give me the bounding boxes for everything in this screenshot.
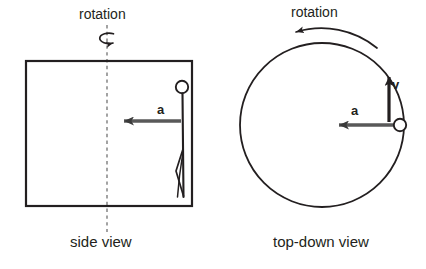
rotation-label-side: rotation: [79, 7, 126, 21]
caption-top-down-view: top-down view: [273, 234, 369, 249]
person-torso: [183, 94, 184, 198]
rotation-label-top: rotation: [291, 5, 338, 19]
caption-side-view: side view: [70, 234, 132, 249]
acceleration-label-top: a: [351, 104, 358, 117]
top-down-view-panel: [240, 28, 406, 207]
person-stick-figure: [176, 81, 188, 197]
side-view-panel: [26, 25, 192, 232]
diagram-canvas: [0, 0, 426, 269]
chamber-rectangle: [26, 61, 192, 206]
velocity-label-top: v: [392, 78, 399, 91]
person-head: [176, 81, 188, 93]
physics-diagram: rotation rotation a a v side view top-do…: [0, 0, 426, 269]
acceleration-label-side: a: [157, 103, 164, 116]
person-marker-top: [394, 119, 406, 131]
